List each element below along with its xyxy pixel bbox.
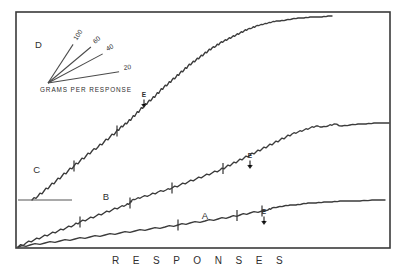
curve-labels-group: ABC [33, 164, 208, 221]
slope-guide-label-40: 40 [105, 42, 115, 52]
curve-label-a: A [202, 210, 209, 221]
slope-guide-label-20: 20 [123, 63, 132, 71]
slope-legend-inset: 100604020GRAMS PER RESPONSED [35, 28, 132, 93]
event-marker-label-c: E [142, 91, 147, 98]
event-markers-group: EEE [142, 91, 267, 224]
chart-canvas: 100604020GRAMS PER RESPONSED ABC EEE R E… [0, 0, 411, 271]
x-axis-title-group: R E S P O N S E S [112, 255, 288, 266]
legend-caption: GRAMS PER RESPONSE [40, 86, 132, 93]
panel-label-d: D [35, 39, 42, 50]
event-marker-label-b: E [248, 152, 253, 159]
event-marker-arrow-head [262, 221, 266, 224]
curve-label-c: C [33, 164, 40, 175]
cumulative-curve-c [32, 16, 332, 200]
event-marker-arrow-head [142, 104, 146, 107]
event-marker-arrow-head [248, 165, 252, 168]
slope-guide-line-100 [48, 44, 73, 83]
cumulative-record-figure: 100604020GRAMS PER RESPONSED ABC EEE R E… [0, 0, 411, 271]
event-marker-label-a: E [262, 208, 267, 215]
curve-label-b: B [103, 191, 110, 202]
x-axis-title: R E S P O N S E S [112, 255, 288, 266]
slope-guide-label-100: 100 [72, 28, 84, 41]
cumulative-curve-b [18, 123, 389, 247]
cumulative-curve-a [18, 200, 385, 247]
slope-guide-label-60: 60 [91, 34, 101, 44]
